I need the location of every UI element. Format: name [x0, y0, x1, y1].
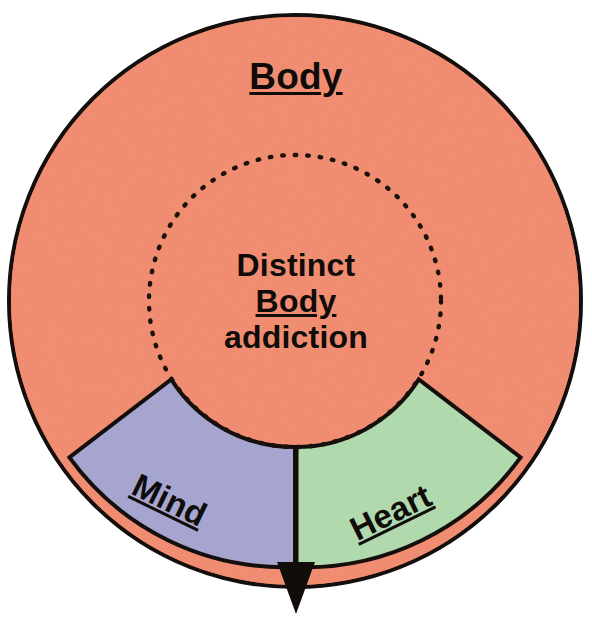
center-label-line1: Distinct: [0, 247, 592, 283]
center-label-line2-text: Body: [256, 283, 337, 319]
body-title: Body: [0, 58, 592, 96]
body-title-text: Body: [249, 56, 342, 97]
center-label-line3: addiction: [0, 319, 592, 355]
center-label-block: Distinct Body addiction: [0, 247, 592, 355]
diagram-canvas: Body Distinct Body addiction Mind Heart: [0, 0, 592, 622]
center-label-line2: Body: [0, 283, 592, 319]
